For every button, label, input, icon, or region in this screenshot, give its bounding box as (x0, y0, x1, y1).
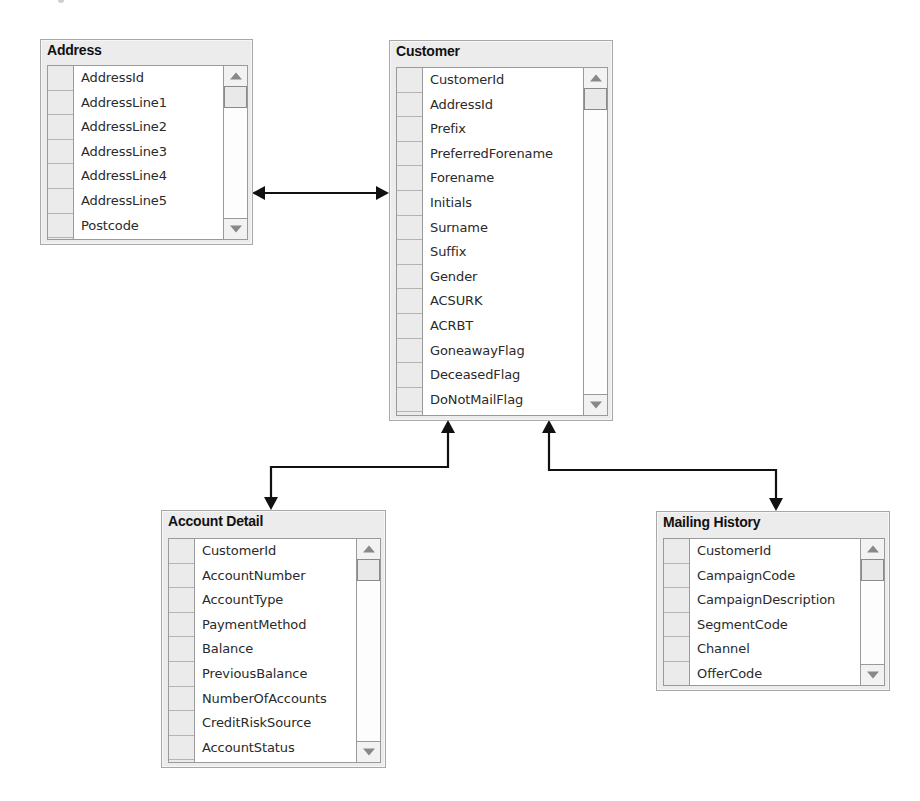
field-list[interactable]: AddressIdAddressLine1AddressLine2Address… (47, 65, 248, 240)
row-selector[interactable] (664, 613, 689, 638)
row-selector[interactable] (397, 240, 422, 265)
scroll-down-button[interactable] (584, 394, 607, 415)
table-mailing-history[interactable]: Mailing History CustomerIdCampaignCodeCa… (656, 511, 890, 691)
field-row[interactable]: PaymentMethod (169, 613, 356, 638)
row-selector[interactable] (48, 91, 73, 116)
scroll-thumb[interactable] (584, 88, 607, 110)
field-row[interactable]: Surname (397, 216, 583, 241)
field-list[interactable]: CustomerIdCampaignCodeCampaignDescriptio… (663, 538, 885, 686)
field-row[interactable]: AddressId (397, 93, 583, 118)
row-selector[interactable] (397, 166, 422, 191)
row-selector[interactable] (169, 662, 194, 687)
field-name: AddressLine1 (81, 95, 167, 110)
row-selector[interactable] (664, 637, 689, 662)
field-row[interactable]: AddressLine1 (48, 91, 223, 116)
vertical-scrollbar[interactable] (356, 539, 380, 762)
field-row[interactable]: NumberOfAccounts (169, 687, 356, 712)
scroll-thumb[interactable] (224, 86, 247, 108)
scroll-up-button[interactable] (861, 539, 884, 559)
field-row[interactable]: Postcode (48, 214, 223, 239)
row-selector[interactable] (664, 564, 689, 589)
field-row[interactable]: Suffix (397, 240, 583, 265)
row-selector[interactable] (169, 564, 194, 589)
field-row[interactable]: Initials (397, 191, 583, 216)
row-selector[interactable] (169, 736, 194, 761)
row-selector[interactable] (48, 140, 73, 165)
field-row[interactable]: AddressLine5 (48, 189, 223, 214)
field-name: Prefix (430, 121, 466, 136)
row-selector[interactable] (397, 314, 422, 339)
field-name: DeceasedFlag (430, 367, 520, 382)
scroll-up-button[interactable] (584, 68, 607, 88)
row-selector[interactable] (397, 388, 422, 413)
row-selector[interactable] (397, 93, 422, 118)
field-row[interactable]: AccountNumber (169, 564, 356, 589)
row-selector[interactable] (48, 214, 73, 239)
field-row[interactable]: AddressLine3 (48, 140, 223, 165)
row-selector[interactable] (397, 339, 422, 364)
field-row[interactable]: AddressId (48, 66, 223, 91)
scroll-down-button[interactable] (357, 741, 380, 762)
field-row[interactable]: CustomerId (664, 539, 860, 564)
row-selector[interactable] (664, 539, 689, 564)
field-row[interactable]: GoneawayFlag (397, 339, 583, 364)
scroll-up-button[interactable] (357, 539, 380, 559)
field-row[interactable]: SegmentCode (664, 613, 860, 638)
field-row[interactable]: DoNotMailFlag (397, 388, 583, 413)
scroll-down-button[interactable] (224, 218, 247, 239)
field-row[interactable]: DeceasedFlag (397, 363, 583, 388)
row-selector[interactable] (169, 687, 194, 712)
field-row[interactable]: CampaignCode (664, 564, 860, 589)
row-selector[interactable] (48, 164, 73, 189)
row-selector[interactable] (397, 142, 422, 167)
row-selector[interactable] (664, 588, 689, 613)
field-list[interactable]: CustomerIdAccountNumberAccountTypePaymen… (168, 538, 381, 763)
row-selector[interactable] (169, 539, 194, 564)
field-row[interactable]: Balance (169, 637, 356, 662)
field-row[interactable]: PreviousBalance (169, 662, 356, 687)
field-row[interactable]: ACRBT (397, 314, 583, 339)
field-row[interactable]: Prefix (397, 117, 583, 142)
row-selector[interactable] (397, 216, 422, 241)
field-row[interactable]: AccountStatus (169, 736, 356, 761)
scroll-thumb[interactable] (357, 559, 380, 581)
row-selector[interactable] (169, 711, 194, 736)
scroll-up-button[interactable] (224, 66, 247, 86)
field-row[interactable]: PreferredForename (397, 142, 583, 167)
field-row[interactable]: CreditRiskSource (169, 711, 356, 736)
vertical-scrollbar[interactable] (583, 68, 607, 415)
field-row[interactable]: Forename (397, 166, 583, 191)
vertical-scrollbar[interactable] (860, 539, 884, 685)
table-account-detail[interactable]: Account Detail CustomerIdAccountNumberAc… (161, 510, 386, 768)
table-address[interactable]: Address AddressIdAddressLine1AddressLine… (40, 39, 253, 245)
row-selector[interactable] (397, 265, 422, 290)
row-selector[interactable] (169, 588, 194, 613)
table-customer[interactable]: Customer CustomerIdAddressIdPrefixPrefer… (389, 40, 613, 421)
scroll-thumb[interactable] (861, 559, 884, 581)
row-selector[interactable] (48, 115, 73, 140)
row-selector[interactable] (397, 363, 422, 388)
field-list[interactable]: CustomerIdAddressIdPrefixPreferredForena… (396, 67, 608, 416)
scroll-down-button[interactable] (861, 664, 884, 685)
field-row[interactable]: OfferCode (664, 662, 860, 686)
vertical-scrollbar[interactable] (223, 66, 247, 239)
row-selector[interactable] (397, 289, 422, 314)
field-row[interactable]: AddressLine4 (48, 164, 223, 189)
field-row[interactable]: CampaignDescription (664, 588, 860, 613)
field-row[interactable]: CustomerId (169, 539, 356, 564)
row-selector[interactable] (48, 189, 73, 214)
row-selector[interactable] (664, 662, 689, 686)
field-row[interactable]: Gender (397, 265, 583, 290)
row-selector[interactable] (397, 68, 422, 93)
field-row[interactable]: AddressLine2 (48, 115, 223, 140)
field-name: Initials (430, 195, 472, 210)
row-selector[interactable] (397, 191, 422, 216)
field-row[interactable]: CustomerId (397, 68, 583, 93)
field-row[interactable]: AccountType (169, 588, 356, 613)
field-row[interactable]: ACSURK (397, 289, 583, 314)
row-selector[interactable] (169, 613, 194, 638)
row-selector[interactable] (397, 117, 422, 142)
row-selector[interactable] (169, 637, 194, 662)
field-row[interactable]: Channel (664, 637, 860, 662)
row-selector[interactable] (48, 66, 73, 91)
